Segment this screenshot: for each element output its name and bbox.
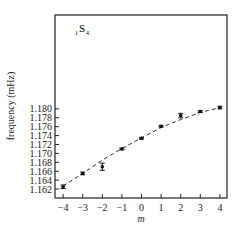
x-tick-label: −2 (97, 202, 108, 213)
annotation-main: S (79, 22, 85, 34)
y-tick-label: 1.180 (30, 103, 53, 114)
x-tick-label: 2 (178, 202, 183, 213)
data-point (80, 172, 85, 176)
data-point (61, 185, 66, 189)
x-tick-label: −3 (77, 202, 88, 213)
chart: 1.1621.1641.1661.1681.1701.1721.1741.176… (0, 0, 239, 232)
x-tick-label: 3 (198, 202, 203, 213)
x-tick-label: 0 (139, 202, 144, 213)
x-tick-label: 1 (159, 202, 164, 213)
fit-curve (63, 108, 220, 186)
x-axis-label: m (137, 213, 144, 224)
annotation-subscript: 4 (86, 30, 89, 36)
state-annotation: 1 S 4 (75, 22, 89, 36)
data-point (100, 163, 105, 170)
x-axis-ticks: −4−3−2−101234 (58, 194, 223, 213)
data-point (198, 110, 203, 114)
data-point (159, 124, 164, 128)
data-points (61, 106, 223, 189)
data-point (119, 147, 124, 151)
x-tick-label: −4 (58, 202, 69, 213)
annotation-prefix: 1 (75, 30, 78, 36)
plot-frame (55, 15, 227, 198)
x-tick-label: −1 (117, 202, 128, 213)
y-axis-label: frequency (mHz) (5, 72, 17, 141)
x-tick-label: 4 (217, 202, 222, 213)
data-point (217, 106, 222, 110)
data-point (178, 113, 183, 117)
data-point (139, 136, 144, 140)
